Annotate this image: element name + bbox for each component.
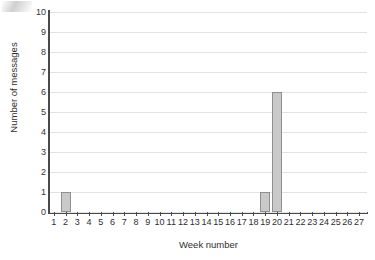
x-tick-mark-15 bbox=[218, 212, 219, 216]
x-tick-mark-2 bbox=[66, 212, 67, 216]
bar-week-2 bbox=[61, 192, 71, 212]
x-tick-mark-23 bbox=[312, 212, 313, 216]
x-tick-mark-27 bbox=[359, 212, 360, 216]
x-tick-mark-19 bbox=[265, 212, 266, 216]
x-tick-mark-3 bbox=[77, 212, 78, 216]
y-tick-label-9: 9 bbox=[28, 28, 46, 37]
gridline-y-2 bbox=[50, 172, 367, 173]
y-tick-label-3: 3 bbox=[28, 148, 46, 157]
x-tick-mark-11 bbox=[171, 212, 172, 216]
gridline-y-10 bbox=[50, 12, 367, 13]
gridline-y-6 bbox=[50, 92, 367, 93]
y-tick-label-1: 1 bbox=[28, 188, 46, 197]
gridline-y-8 bbox=[50, 52, 367, 53]
y-axis-tick-labels: 012345678910 bbox=[24, 12, 46, 212]
x-tick-mark-16 bbox=[230, 212, 231, 216]
x-tick-mark-6 bbox=[113, 212, 114, 216]
gridline-y-7 bbox=[50, 72, 367, 73]
y-tick-label-0: 0 bbox=[28, 208, 46, 217]
x-tick-mark-22 bbox=[300, 212, 301, 216]
y-tick-label-2: 2 bbox=[28, 168, 46, 177]
gridline-y-0 bbox=[50, 212, 367, 213]
x-tick-mark-24 bbox=[324, 212, 325, 216]
x-axis-title: Week number bbox=[50, 239, 367, 250]
x-tick-mark-26 bbox=[347, 212, 348, 216]
y-tick-label-7: 7 bbox=[28, 68, 46, 77]
x-tick-mark-17 bbox=[242, 212, 243, 216]
gridline-y-1 bbox=[50, 192, 367, 193]
x-tick-mark-20 bbox=[277, 212, 278, 216]
y-tick-label-10: 10 bbox=[28, 8, 46, 17]
x-tick-mark-5 bbox=[101, 212, 102, 216]
x-tick-mark-1 bbox=[54, 212, 55, 216]
x-tick-mark-7 bbox=[124, 212, 125, 216]
x-tick-mark-13 bbox=[195, 212, 196, 216]
bar-week-20 bbox=[272, 92, 282, 212]
x-tick-mark-10 bbox=[160, 212, 161, 216]
x-tick-mark-9 bbox=[148, 212, 149, 216]
bar-week-19 bbox=[260, 192, 270, 212]
bar-chart-figure: 012345678910 123456789101112131415161718… bbox=[0, 0, 375, 260]
gridline-y-3 bbox=[50, 152, 367, 153]
x-tick-mark-12 bbox=[183, 212, 184, 216]
x-tick-mark-14 bbox=[207, 212, 208, 216]
y-tick-label-8: 8 bbox=[28, 48, 46, 57]
x-tick-mark-25 bbox=[336, 212, 337, 216]
x-tick-mark-4 bbox=[89, 212, 90, 216]
x-tick-label-27: 27 bbox=[348, 217, 370, 227]
gridline-y-9 bbox=[50, 32, 367, 33]
y-tick-label-5: 5 bbox=[28, 108, 46, 117]
x-tick-mark-8 bbox=[136, 212, 137, 216]
gridline-y-4 bbox=[50, 132, 367, 133]
y-tick-label-4: 4 bbox=[28, 128, 46, 137]
plot-area bbox=[50, 12, 367, 212]
gridline-y-5 bbox=[50, 112, 367, 113]
x-tick-mark-18 bbox=[253, 212, 254, 216]
y-axis-title: Number of messages bbox=[8, 13, 19, 163]
x-tick-mark-21 bbox=[289, 212, 290, 216]
y-tick-label-6: 6 bbox=[28, 88, 46, 97]
